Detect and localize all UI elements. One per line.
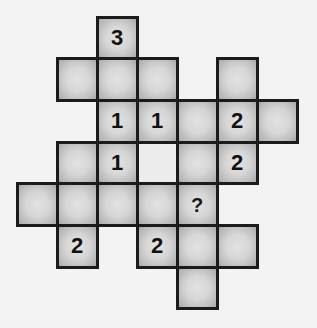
- grid-cell-r4-c2: [96, 182, 139, 227]
- grid-cell-r4-c3: [136, 182, 179, 227]
- grid-cell-r3-c3: [136, 141, 179, 186]
- cell-value: 1: [111, 152, 123, 174]
- grid-cell-r1-c3: [136, 57, 179, 102]
- clue-cell-r5-c1: 2: [56, 224, 99, 269]
- clue-cell-r3-c5: 2: [216, 141, 259, 186]
- cell-value: 2: [71, 235, 83, 257]
- grid-cell-r1-c2: [96, 57, 139, 102]
- grid-cell-r3-c4: [176, 141, 219, 186]
- clue-cell-r0-c2: 3: [96, 16, 139, 61]
- cell-value: 3: [111, 27, 123, 49]
- grid-cell-r4-c1: [56, 182, 99, 227]
- grid-cell-r1-c5: [216, 57, 259, 102]
- grid-cell-r2-c4: [176, 99, 219, 144]
- cell-value: 2: [151, 235, 163, 257]
- clue-cell-r2-c5: 2: [216, 99, 259, 144]
- grid-cell-r6-c4: [176, 266, 219, 311]
- unknown-cell[interactable]: ?: [176, 182, 219, 227]
- grid-cell-r5-c4: [176, 224, 219, 269]
- grid-cell-r4-c0: [16, 182, 59, 227]
- grid-cell-r5-c5: [216, 224, 259, 269]
- grid-cell-r2-c6: [256, 99, 299, 144]
- cell-value: 1: [151, 110, 163, 132]
- grid-cell-r3-c1: [56, 141, 99, 186]
- clue-cell-r3-c2: 1: [96, 141, 139, 186]
- cell-value: 1: [111, 110, 123, 132]
- clue-cell-r2-c2: 1: [96, 99, 139, 144]
- question-mark: ?: [191, 195, 203, 215]
- clue-cell-r5-c3: 2: [136, 224, 179, 269]
- cell-value: 2: [231, 152, 243, 174]
- clue-cell-r2-c3: 1: [136, 99, 179, 144]
- cell-value: 2: [231, 110, 243, 132]
- grid-cell-r1-c1: [56, 57, 99, 102]
- puzzle-board: 311212?22: [0, 0, 317, 328]
